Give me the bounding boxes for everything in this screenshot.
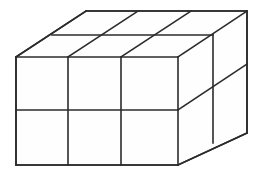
front-face (16, 57, 178, 165)
cube-stack-figure (0, 0, 263, 174)
cube-stack-drawing (0, 0, 263, 174)
